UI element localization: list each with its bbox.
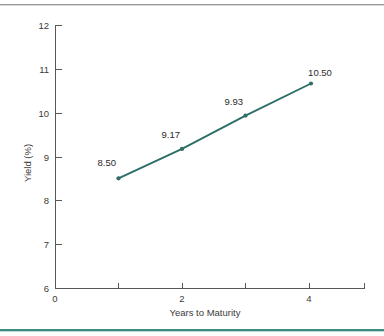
line-chart: 12 11 10 9 8 7 6 0 2 4 Years to Maturity… [0, 0, 384, 336]
y-tick-labels: 12 11 10 9 8 7 6 [38, 20, 49, 294]
x-tick-label: 4 [306, 293, 311, 304]
bottom-divider-rule-shadow [0, 331, 384, 332]
data-point-label: 9.17 [162, 129, 181, 140]
x-tick-labels: 0 2 4 [52, 293, 311, 304]
y-tick-label: 7 [44, 239, 49, 250]
data-point-label: 10.50 [308, 67, 332, 78]
data-point-marker [180, 147, 184, 151]
x-axis-title: Years to Maturity [170, 307, 241, 318]
data-point-label: 9.93 [225, 96, 244, 107]
data-point-marker [309, 81, 313, 85]
x-tick-label: 0 [52, 293, 57, 304]
x-tick-label: 2 [179, 293, 184, 304]
series-line-path [119, 84, 312, 179]
y-tick-label: 11 [39, 64, 49, 75]
y-tick-label: 12 [38, 20, 49, 31]
data-point-marker [116, 176, 120, 180]
y-tick-label: 9 [44, 152, 49, 163]
x-tick-marks [119, 283, 365, 289]
data-point-marker [243, 114, 247, 118]
y-tick-label: 10 [38, 108, 49, 119]
data-point-labels: 8.50 9.17 9.93 10.50 [98, 67, 332, 168]
y-tick-label: 6 [44, 283, 49, 294]
figure-container: 12 11 10 9 8 7 6 0 2 4 Years to Maturity… [0, 0, 384, 336]
data-point-label: 8.50 [98, 157, 117, 168]
y-tick-label: 8 [44, 195, 49, 206]
y-tick-marks [56, 26, 62, 245]
data-series-yield-curve [116, 81, 313, 180]
y-axis-title: Yield (%) [22, 144, 33, 182]
